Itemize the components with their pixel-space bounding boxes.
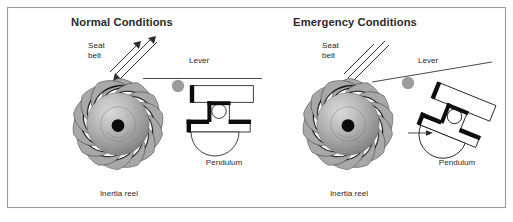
lever-roller-emergency bbox=[402, 77, 414, 89]
label-seat-belt-normal-line2: belt bbox=[88, 51, 102, 60]
label-lever-normal: Lever bbox=[189, 56, 210, 65]
label-seat-belt-normal-line1: Seat bbox=[88, 41, 105, 50]
label-seat-belt-emergency-line1: Seat bbox=[322, 41, 339, 50]
panel-normal-title: Normal Conditions bbox=[71, 16, 173, 28]
label-lever-emergency: Lever bbox=[418, 56, 439, 65]
label-pendulum-normal: Pendulum bbox=[206, 158, 243, 167]
label-pendulum-emergency: Pendulum bbox=[439, 158, 476, 167]
label-inertia-reel-normal: Inertia reel bbox=[100, 189, 138, 198]
diagram-figure: Normal Conditions Seat belt Inertia reel bbox=[0, 0, 513, 222]
label-inertia-reel-emergency: Inertia reel bbox=[330, 189, 368, 198]
label-seat-belt-emergency-line2: belt bbox=[322, 51, 336, 60]
lever-roller-normal bbox=[172, 80, 184, 92]
panel-emergency-title: Emergency Conditions bbox=[293, 16, 417, 28]
